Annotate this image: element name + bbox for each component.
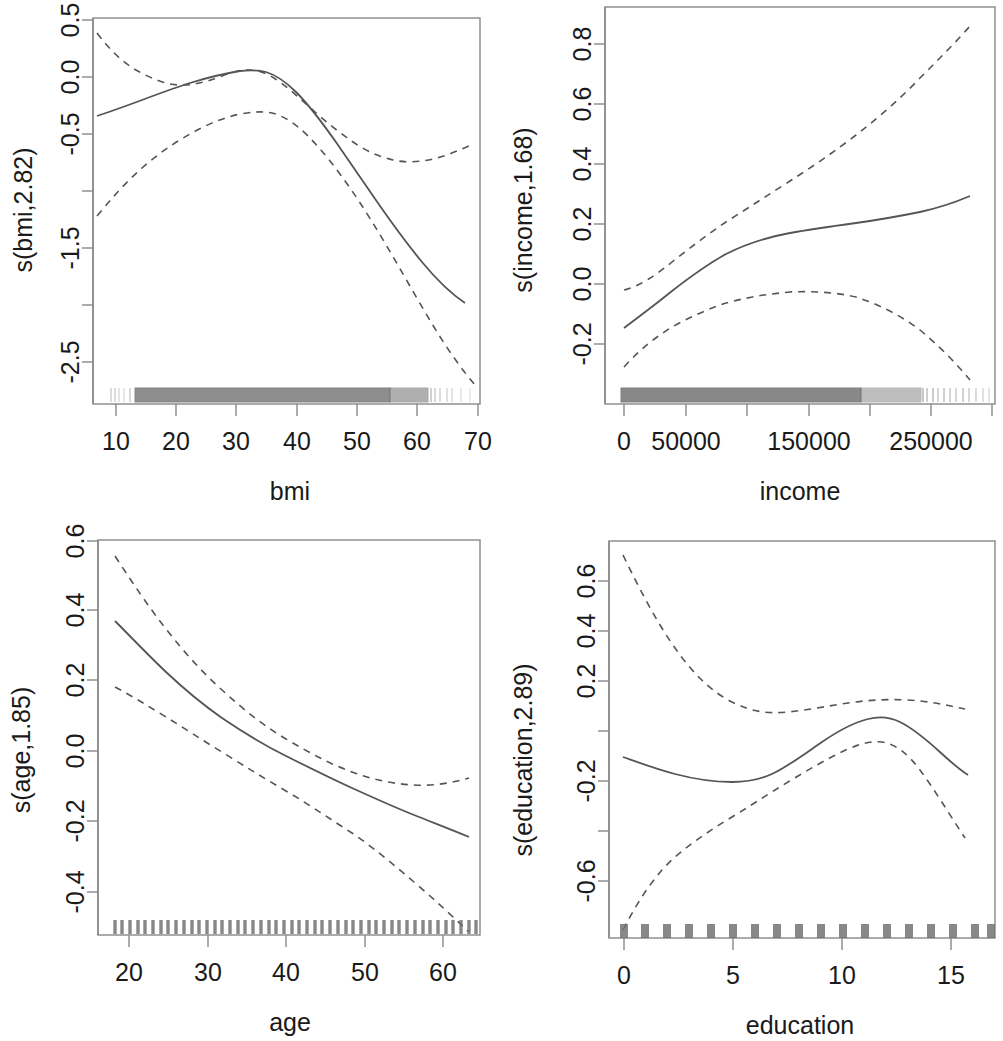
panel-education-svg: s(education,2.89) 0.6 0.4 0.2 -0.2 -0.6 <box>500 520 1003 1041</box>
panel-education-xticks <box>624 938 951 950</box>
panel-education: s(education,2.89) 0.6 0.4 0.2 -0.2 -0.6 <box>500 520 1003 1041</box>
panel-bmi-ytick-1: 0.0 <box>56 60 84 95</box>
panel-age-ytick-5: -0.4 <box>61 870 89 913</box>
panel-age-xtick-1: 30 <box>194 958 222 986</box>
panel-income-xtick-labels: 0 50000 150000 250000 <box>617 427 973 455</box>
panel-income-xtick-5: 250000 <box>889 427 972 455</box>
panel-age-xtick-0: 20 <box>115 958 143 986</box>
panel-income-ytick-2: 0.4 <box>568 147 596 182</box>
panel-income-xtick-1: 50000 <box>651 427 721 455</box>
panel-age-fit-line <box>115 621 469 837</box>
panel-education-ytick-4: -0.2 <box>572 759 600 802</box>
panel-age-xtick-labels: 20 30 40 50 60 <box>115 958 457 986</box>
panel-bmi-xtick-0: 10 <box>102 427 130 455</box>
panel-income-ytick-3: 0.2 <box>568 207 596 242</box>
panel-education-ytick-2: 0.2 <box>572 664 600 699</box>
panel-age-yticks <box>87 541 98 892</box>
panel-education-ytick-0: 0.6 <box>572 564 600 599</box>
panel-income-ytick-labels: 0.8 0.6 0.4 0.2 0.0 -0.2 <box>568 27 596 366</box>
panel-income-ytick-4: 0.0 <box>568 267 596 302</box>
panel-bmi-xtick-2: 30 <box>222 427 250 455</box>
panel-education-xtick-0: 0 <box>617 961 631 989</box>
panel-income-rug <box>621 388 989 402</box>
panel-age-xtick-4: 60 <box>429 958 457 986</box>
panel-bmi-ylabel: s(bmi,2.82) <box>9 147 37 272</box>
panel-income-yticks <box>594 44 605 344</box>
panel-income-svg: s(income,1.68) 0.8 0.6 0.4 0.2 0.0 -0.2 <box>500 0 1003 520</box>
panel-age-frame <box>98 540 480 935</box>
panel-education-xtick-3: 15 <box>937 961 965 989</box>
panel-income-ytick-1: 0.6 <box>568 87 596 122</box>
panel-education-xtick-2: 10 <box>828 961 856 989</box>
panel-age-ytick-2: 0.2 <box>61 663 89 698</box>
panel-bmi-upper-ci <box>97 33 473 162</box>
panel-education-ylabel: s(education,2.89) <box>509 663 537 856</box>
panel-education-frame <box>609 541 995 938</box>
panel-bmi-xtick-3: 40 <box>283 427 311 455</box>
panel-age-ylabel: s(age,1.85) <box>7 687 35 813</box>
panel-bmi-xtick-labels: 10 20 30 40 50 60 70 <box>102 427 492 455</box>
panel-income-xticks <box>624 404 992 416</box>
panel-age-lower-ci <box>115 687 469 932</box>
panel-age-ytick-0: 0.6 <box>61 524 89 559</box>
panel-education-xlabel: education <box>746 1011 854 1039</box>
panel-bmi-ytick-2: -0.5 <box>56 112 84 155</box>
panel-bmi-xtick-5: 60 <box>403 427 431 455</box>
panel-education-ytick-1: 0.4 <box>572 614 600 649</box>
panel-age-xticks <box>129 935 443 947</box>
panel-bmi-ytick-4: -1.5 <box>56 226 84 269</box>
panel-education-upper-ci <box>623 555 965 713</box>
panel-age-rug <box>115 920 476 934</box>
panel-age: s(age,1.85) 0.6 0.4 0.2 0.0 -0.2 -0.4 <box>0 520 500 1041</box>
panel-bmi-lower-ci <box>97 112 476 386</box>
panel-age-ytick-3: 0.0 <box>61 734 89 769</box>
panel-age-svg: s(age,1.85) 0.6 0.4 0.2 0.0 -0.2 -0.4 <box>0 520 500 1041</box>
panel-bmi-ytick-0: 0.5 <box>56 3 84 38</box>
panel-education-xtick-1: 5 <box>726 961 740 989</box>
panel-education-lower-ci <box>623 742 965 930</box>
panel-income-frame <box>605 7 995 404</box>
panel-income-fit-line <box>624 196 970 328</box>
panel-income-xtick-0: 0 <box>617 427 631 455</box>
panel-bmi-xticks <box>116 404 478 416</box>
panel-age-xtick-2: 40 <box>272 958 300 986</box>
panel-age-ytick-4: -0.2 <box>61 799 89 842</box>
panel-education-rug <box>620 924 995 938</box>
panel-age-ytick-1: 0.4 <box>61 593 89 628</box>
panel-income: s(income,1.68) 0.8 0.6 0.4 0.2 0.0 -0.2 <box>500 0 1003 520</box>
panel-age-xtick-3: 50 <box>351 958 379 986</box>
panel-education-xtick-labels: 0 5 10 15 <box>617 961 965 989</box>
panel-bmi-xlabel: bmi <box>270 477 310 505</box>
panel-bmi-rug <box>111 388 470 402</box>
panel-income-xtick-3: 150000 <box>767 427 850 455</box>
panel-bmi-yticks <box>82 20 93 362</box>
gam-smooth-terms-figure: s(bmi,2.82) 0.5 0.0 -0.5 -1.5 -2.5 <box>0 0 1003 1041</box>
panel-income-upper-ci <box>624 26 970 290</box>
panel-education-ytick-6: -0.6 <box>572 859 600 902</box>
panel-bmi-svg: s(bmi,2.82) 0.5 0.0 -0.5 -1.5 -2.5 <box>0 0 500 520</box>
panel-bmi-xtick-4: 50 <box>343 427 371 455</box>
panel-income-xlabel: income <box>760 477 841 505</box>
panel-bmi-xtick-6: 70 <box>464 427 492 455</box>
panel-income-ylabel: s(income,1.68) <box>509 127 537 292</box>
panel-income-ytick-5: -0.2 <box>568 322 596 365</box>
panel-bmi-ylabel-group: s(bmi,2.82) <box>9 147 37 272</box>
panel-bmi-frame <box>93 18 480 404</box>
panel-education-yticks <box>598 581 609 881</box>
panel-age-ytick-labels: 0.6 0.4 0.2 0.0 -0.2 -0.4 <box>61 524 89 914</box>
panel-education-ytick-labels: 0.6 0.4 0.2 -0.2 -0.6 <box>572 564 600 903</box>
panel-bmi: s(bmi,2.82) 0.5 0.0 -0.5 -1.5 -2.5 <box>0 0 500 520</box>
panel-education-fit-line <box>623 717 968 782</box>
panel-bmi-xtick-1: 20 <box>162 427 190 455</box>
panel-income-ytick-0: 0.8 <box>568 27 596 62</box>
panel-age-xlabel: age <box>269 1008 311 1036</box>
panel-bmi-ytick-labels: 0.5 0.0 -0.5 -1.5 -2.5 <box>56 3 84 384</box>
panel-bmi-ytick-6: -2.5 <box>56 340 84 383</box>
panel-income-lower-ci <box>624 292 970 380</box>
panel-bmi-fit-line <box>97 70 465 303</box>
panel-age-upper-ci <box>115 556 469 785</box>
